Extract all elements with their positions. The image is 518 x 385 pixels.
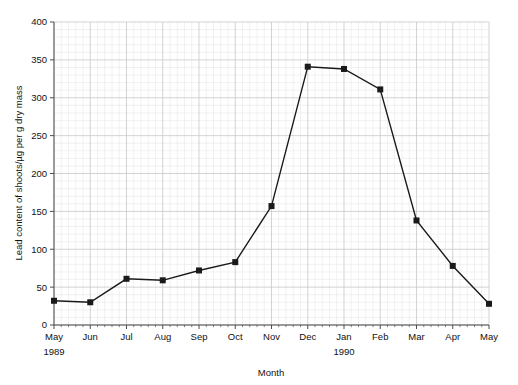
data-point-marker <box>305 64 311 70</box>
x-axis-tick-label: Dec <box>299 331 316 342</box>
line-chart: 050100150200250300350400 MayJunJulAugSep… <box>0 0 518 385</box>
data-point-marker <box>51 298 57 304</box>
x-axis-tick-label: Sep <box>191 331 208 342</box>
y-axis-ticks <box>50 22 54 325</box>
y-axis-tick-label: 100 <box>31 244 47 255</box>
data-point-marker <box>269 203 275 209</box>
y-axis-tick-label: 250 <box>31 130 47 141</box>
data-point-marker <box>414 217 420 223</box>
data-point-marker <box>486 301 492 307</box>
x-axis-tick-label: Mar <box>408 331 424 342</box>
x-axis-tick-label: Jul <box>120 331 132 342</box>
data-point-marker <box>341 66 347 72</box>
y-axis-tick-label: 350 <box>31 54 47 65</box>
x-axis-tick-label: Jun <box>83 331 98 342</box>
y-axis-tick-label: 50 <box>36 282 47 293</box>
x-axis-tick-label: Jan <box>336 331 351 342</box>
x-axis-tick-label: Feb <box>372 331 388 342</box>
y-axis-title: Lead content of shoots/µg per g dry mass <box>13 85 24 260</box>
x-axis-tick-label: Nov <box>263 331 280 342</box>
x-axis-year-labels: 19891990 <box>43 346 354 357</box>
data-point-marker <box>196 267 202 273</box>
y-axis-tick-label: 150 <box>31 206 47 217</box>
data-point-marker <box>232 259 238 265</box>
x-axis-tick-label: May <box>480 331 498 342</box>
x-axis-tick-label: Aug <box>154 331 171 342</box>
y-axis-tick-labels: 050100150200250300350400 <box>31 16 47 330</box>
y-axis-tick-label: 0 <box>42 319 47 330</box>
data-point-marker <box>124 276 130 282</box>
x-axis-year-label: 1990 <box>333 346 354 357</box>
x-axis-ticks <box>54 325 489 329</box>
x-axis-year-label: 1989 <box>43 346 64 357</box>
y-axis-tick-label: 300 <box>31 92 47 103</box>
x-axis-title: Month <box>258 367 284 378</box>
y-axis-tick-label: 200 <box>31 168 47 179</box>
data-point-marker <box>87 299 93 305</box>
x-axis-tick-label: Oct <box>228 331 243 342</box>
x-axis-tick-label: Apr <box>445 331 460 342</box>
data-point-marker <box>160 277 166 283</box>
y-axis-tick-label: 400 <box>31 16 47 27</box>
data-point-marker <box>377 86 383 92</box>
x-axis-tick-labels: MayJunJulAugSepOctNovDecJanFebMarAprMay <box>45 331 498 342</box>
data-point-marker <box>450 263 456 269</box>
chart-container: 050100150200250300350400 MayJunJulAugSep… <box>0 0 518 385</box>
x-axis-tick-label: May <box>45 331 63 342</box>
